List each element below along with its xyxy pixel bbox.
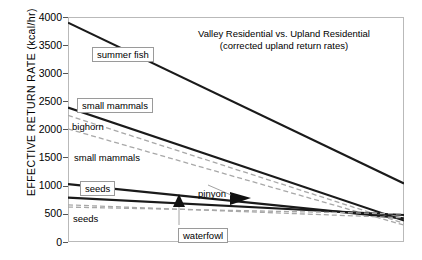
chart-figure: EFFECTIVE RETURN RATE (kcal/hr) 4000 350…	[0, 0, 422, 260]
label-seeds-upland: seeds	[71, 212, 100, 225]
y-tick-2500: 2500	[28, 96, 62, 107]
chart-title-line1: Valley Residential vs. Upland Residentia…	[176, 28, 392, 40]
y-tick-3500: 3500	[28, 40, 62, 51]
y-tickmark-0	[63, 242, 68, 243]
y-tick-1000: 1000	[28, 180, 62, 191]
y-tick-0: 0	[28, 237, 62, 248]
y-tick-2000: 2000	[28, 124, 62, 135]
y-axis-tick-labels: 4000 3500 3000 2500 2000 1500 1000 500 0	[26, 0, 62, 260]
y-tick-3000: 3000	[28, 68, 62, 79]
label-pinyon: pinyon	[196, 187, 228, 200]
y-tick-500: 500	[28, 208, 62, 219]
label-small-mammals-upland: small mammals	[72, 151, 142, 164]
chart-title: Valley Residential vs. Upland Residentia…	[176, 28, 392, 51]
label-summer-fish: summer fish	[92, 47, 154, 62]
label-bighorn: bighorn	[70, 120, 106, 133]
chart-title-line2: (corrected upland return rates)	[176, 40, 392, 52]
label-waterfowl: waterfowl	[178, 228, 228, 243]
series-line-small-mammals-valley	[68, 108, 404, 221]
y-tick-4000: 4000	[28, 12, 62, 23]
y-tick-1500: 1500	[28, 152, 62, 163]
label-small-mammals-valley: small mammals	[77, 98, 153, 113]
label-seeds-valley: seeds	[80, 181, 115, 196]
